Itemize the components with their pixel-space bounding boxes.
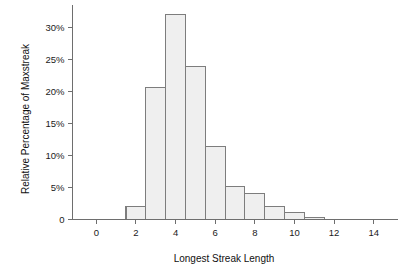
x-tick-label: 8 [252,227,257,238]
histogram-bar [185,67,205,220]
x-axis-ticks: 02468101214 [94,220,379,238]
plot-area: 02468101214 05%10%15%20%25%30% [45,5,397,237]
y-tick-label: 20% [45,86,65,97]
x-tick-label: 10 [289,227,300,238]
y-tick-label: 5% [51,182,65,193]
x-axis-title: Longest Streak Length [174,253,275,264]
x-tick-label: 2 [133,227,138,238]
y-axis-ticks: 05%10%15%20%25%30% [45,22,72,225]
chart-container: 02468101214 05%10%15%20%25%30% Longest S… [0,0,409,269]
x-tick-label: 12 [329,227,340,238]
x-tick-label: 4 [173,227,178,238]
x-tick-label: 0 [94,227,99,238]
histogram-chart: 02468101214 05%10%15%20%25%30% Longest S… [0,0,409,269]
y-tick-label: 30% [45,22,65,33]
histogram-bar [225,187,245,220]
y-axis-title: Relative Percentage of Maxstreak [20,43,31,194]
histogram-bar [285,212,305,219]
histogram-bar [146,88,166,220]
histogram-bar [126,207,146,220]
x-tick-label: 6 [213,227,218,238]
x-tick-label: 14 [368,227,379,238]
histogram-bar [265,206,285,219]
histogram-bar [166,14,186,219]
y-tick-label: 0 [59,214,64,225]
y-tick-label: 15% [45,118,65,129]
histogram-bar [245,193,265,219]
y-tick-label: 25% [45,54,65,65]
y-tick-label: 10% [45,150,65,161]
bars-group [126,14,324,219]
histogram-bar [205,147,225,220]
